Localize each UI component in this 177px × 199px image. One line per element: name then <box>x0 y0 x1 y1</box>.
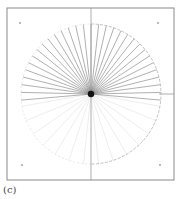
ray-line <box>42 44 91 94</box>
radial-diagram <box>0 0 177 199</box>
corner-marker-dot <box>19 22 21 24</box>
ray-line <box>91 44 140 94</box>
ray-line <box>91 94 139 145</box>
ray-line <box>91 94 161 100</box>
corner-marker-dot <box>21 164 23 166</box>
corner-marker-dot <box>159 164 161 166</box>
ray-line <box>43 94 91 145</box>
ray-line <box>91 94 160 106</box>
panel-label: (c) <box>3 184 16 195</box>
ray-line <box>21 94 91 100</box>
center-point <box>88 91 94 97</box>
ray-line <box>22 94 91 106</box>
corner-marker-dot <box>157 22 159 24</box>
